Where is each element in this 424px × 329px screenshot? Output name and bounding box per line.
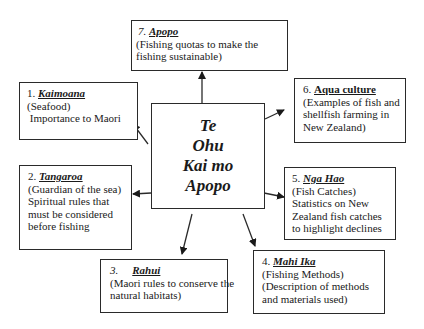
arrow-to-nga-hao	[264, 193, 284, 197]
central-topic-box: Te Ohu Kai mo Apopo	[151, 103, 265, 209]
topic-line: to highlight declines	[292, 222, 390, 235]
topic-number: 2.	[28, 170, 36, 182]
topic-line: (Examples of fish and	[303, 96, 400, 109]
topic-box-tangaroa: 2. Tangaroa (Guardian of the sea) Spirit…	[19, 165, 132, 250]
topic-line: (Fishing Methods)	[262, 268, 379, 281]
arrow-to-mahi-ika	[243, 214, 255, 246]
central-topic-line-4: Apopo	[185, 176, 230, 196]
topic-line: before fishing	[28, 220, 126, 233]
central-topic-line-3: Kai mo	[183, 156, 234, 176]
topic-box-mahi-ika: 4. Mahi Ika (Fishing Methods) (Descripti…	[253, 250, 385, 314]
topic-line: and materials used)	[262, 293, 379, 306]
topic-number: 6.	[303, 83, 311, 95]
topic-name: Kaimoana	[38, 87, 85, 99]
topic-name: Mahi Ika	[273, 255, 316, 267]
topic-line: New Zealand)	[303, 121, 400, 134]
topic-line: (Fishing quotas to make the	[136, 38, 282, 51]
topic-line: Importance to Maori	[27, 112, 132, 125]
topic-name: Tangaroa	[39, 170, 83, 182]
arrow-to-aqua-culture	[265, 110, 284, 119]
topic-line: Zealand fish catches	[292, 210, 390, 223]
topic-line: natural habitats)	[110, 289, 222, 302]
arrow-to-tangaroa	[133, 193, 151, 194]
topic-box-apopo: 7. Apopo (Fishing quotas to make the fis…	[131, 20, 288, 71]
arrow-to-rahui	[182, 214, 192, 254]
topic-name: Nga Hao	[303, 172, 344, 184]
topic-name: Apopo	[149, 25, 178, 37]
topic-number: 3.	[110, 264, 118, 276]
topic-name: Rahui	[132, 264, 160, 276]
topic-line: Statistics on New	[292, 197, 390, 210]
topic-line: (Maori rules to conserve the	[110, 277, 222, 290]
topic-line: (Guardian of the sea)	[28, 183, 126, 196]
topic-number: 1.	[27, 87, 35, 99]
central-topic-line-2: Ohu	[192, 136, 223, 156]
topic-number: 4.	[262, 255, 270, 267]
topic-box-rahui: 3.Rahui (Maori rules to conserve the nat…	[100, 259, 228, 313]
central-topic-line-1: Te	[200, 116, 216, 136]
topic-name: Aqua culture	[314, 83, 376, 95]
topic-number: 5.	[292, 172, 300, 184]
topic-line: (Description of methods	[262, 280, 379, 293]
topic-box-nga-hao: 5. Nga Hao (Fish Catches) Statistics on …	[284, 167, 396, 240]
topic-line: fishing sustainable)	[136, 50, 282, 63]
topic-number: 7.	[138, 25, 146, 37]
topic-line: (Fish Catches)	[292, 185, 390, 198]
topic-line: (Seafood)	[27, 100, 132, 113]
topic-line: Spiritual rules that	[28, 195, 126, 208]
topic-box-aqua-culture: 6. Aqua culture (Examples of fish and sh…	[294, 78, 406, 143]
topic-line: must be considered	[28, 208, 126, 221]
topic-box-kaimoana: 1. Kaimoana (Seafood) Importance to Maor…	[19, 82, 138, 140]
topic-line: shellfish farming in	[303, 108, 400, 121]
